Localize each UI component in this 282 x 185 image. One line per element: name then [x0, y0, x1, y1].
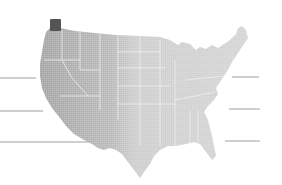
relief-texture	[40, 26, 248, 178]
us-map	[0, 0, 282, 185]
washington-marker	[50, 19, 61, 31]
us-map-svg	[0, 0, 282, 185]
